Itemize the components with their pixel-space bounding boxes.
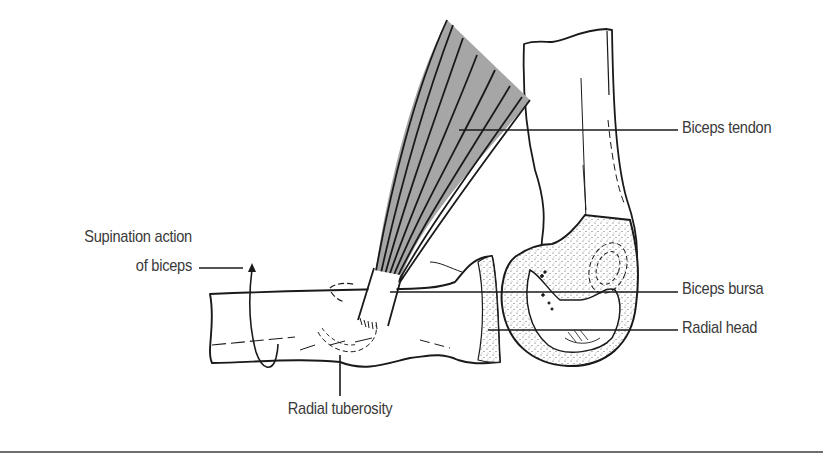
label-supination-line1: Supination action <box>54 227 192 247</box>
label-radial-tuberosity: Radial tuberosity <box>271 399 409 419</box>
label-biceps-tendon: Biceps tendon <box>682 118 771 138</box>
label-supination-line2: of biceps <box>54 256 192 276</box>
label-biceps-bursa: Biceps bursa <box>682 279 763 299</box>
biceps-muscle <box>374 20 530 282</box>
bottom-divider <box>0 451 823 453</box>
humeral-condyle <box>502 215 638 366</box>
label-radial-head: Radial head <box>682 318 757 338</box>
radius <box>210 256 500 367</box>
